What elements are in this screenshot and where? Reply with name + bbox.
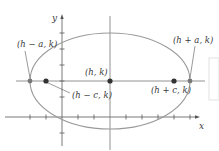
focus-left-label: (h − c, k) — [72, 90, 112, 100]
x-axis-label: x — [199, 121, 204, 131]
vertex-left-point — [28, 79, 33, 84]
y-axis — [60, 14, 65, 146]
focus-right-label: (h + c, k) — [151, 85, 191, 95]
center-label: (h, k) — [85, 67, 108, 77]
center-point — [107, 78, 112, 83]
x-axis — [5, 115, 200, 120]
vertex-right-label: (h + a, k) — [173, 35, 213, 45]
vertex-right-point — [188, 79, 193, 84]
ellipse-diagram: y x (h − a, k) (h + a, k) (h, k) (h − c,… — [0, 0, 219, 151]
vertex-left-label: (h − a, k) — [17, 39, 57, 49]
edge-panel — [209, 58, 219, 100]
focus-left-point — [43, 78, 48, 83]
focus-right-point — [171, 78, 176, 83]
y-axis-label: y — [51, 13, 58, 23]
